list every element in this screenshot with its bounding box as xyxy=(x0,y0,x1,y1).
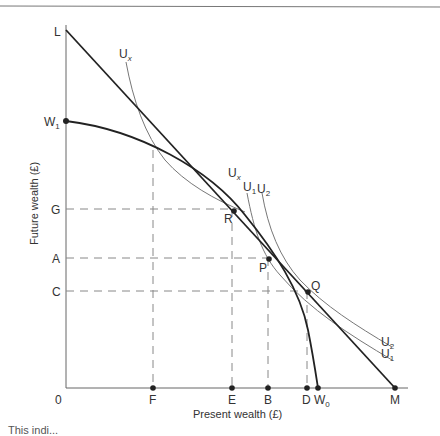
caption-text: This indi... xyxy=(8,424,58,436)
top-rule xyxy=(0,6,440,7)
label-p: P xyxy=(259,261,267,275)
label-q: Q xyxy=(311,279,320,293)
indifference-curve-u2 xyxy=(262,193,392,347)
label-a: A xyxy=(52,252,60,266)
label-b: B xyxy=(264,393,272,407)
label-u2-top: U2 xyxy=(257,182,271,198)
label-w1: W1 xyxy=(44,115,60,131)
label-m: M xyxy=(390,393,400,407)
label-w0: W0 xyxy=(314,393,330,409)
indifference-curve-u1 xyxy=(247,193,392,360)
opportunity-curve xyxy=(66,121,318,388)
indifference-curve-ux xyxy=(126,62,245,212)
label-origin: 0 xyxy=(55,393,62,407)
y-axis-label: Future wealth (£) xyxy=(28,162,40,245)
label-l: L xyxy=(54,25,61,39)
label-d: D xyxy=(302,393,311,407)
label-g: G xyxy=(51,203,60,217)
point-p-marker xyxy=(266,256,272,262)
label-ux-mid: Ux xyxy=(228,166,242,182)
label-c: C xyxy=(52,285,61,299)
axis-points xyxy=(63,118,398,391)
label-u1-top: U1 xyxy=(243,180,257,196)
label-e: E xyxy=(228,393,236,407)
x-axis-label: Present wealth (£) xyxy=(193,408,282,420)
label-r: R xyxy=(224,212,233,226)
point-q-marker xyxy=(305,289,311,295)
label-f: F xyxy=(149,393,156,407)
dashed-guides xyxy=(66,150,307,388)
indifference-curves xyxy=(126,62,392,360)
label-ux-top: Ux xyxy=(119,47,133,63)
